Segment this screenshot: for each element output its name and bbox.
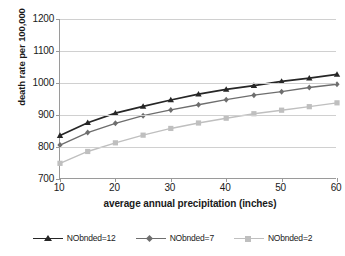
data-point bbox=[196, 120, 201, 125]
legend-item-NObnded=12[interactable]: NObnded=12 bbox=[33, 233, 116, 244]
data-point bbox=[279, 89, 284, 95]
legend-item-NObnded=7[interactable]: NObnded=7 bbox=[136, 233, 214, 244]
data-point bbox=[224, 97, 229, 103]
data-point bbox=[307, 84, 312, 90]
data-point bbox=[113, 120, 118, 126]
chart-legend: NObnded=12NObnded=7NObnded=2 bbox=[0, 229, 345, 247]
data-point bbox=[196, 102, 201, 108]
gridline-y-800 bbox=[60, 147, 336, 148]
legend-label: NObnded=2 bbox=[268, 233, 312, 243]
gridline-y-1000 bbox=[60, 83, 336, 84]
x-tick-label-30: 30 bbox=[150, 182, 190, 194]
data-point bbox=[168, 107, 173, 113]
data-point bbox=[251, 92, 256, 98]
plot-area bbox=[59, 19, 336, 179]
legend-label: NObnded=12 bbox=[67, 233, 116, 243]
data-point bbox=[113, 140, 118, 145]
x-axis-tick-labels: 102030405060 bbox=[59, 182, 336, 196]
y-tick-label-1100: 1100 bbox=[14, 46, 54, 56]
legend-label: NObnded=7 bbox=[170, 233, 214, 243]
chart-figure: death rate per 100,000 70080090010001100… bbox=[0, 0, 345, 256]
y-tick-mark-800 bbox=[56, 147, 60, 148]
data-point bbox=[334, 100, 339, 105]
y-tick-mark-900 bbox=[56, 115, 60, 116]
data-point bbox=[279, 108, 284, 113]
gridline-y-900 bbox=[60, 115, 336, 116]
y-tick-mark-1200 bbox=[56, 19, 60, 20]
x-tick-label-50: 50 bbox=[261, 182, 301, 194]
legend-item-NObnded=2[interactable]: NObnded=2 bbox=[234, 233, 312, 244]
data-point bbox=[224, 116, 229, 121]
data-point bbox=[168, 126, 173, 131]
legend-swatch-icon bbox=[136, 233, 166, 244]
gridline-y-1100 bbox=[60, 51, 336, 52]
y-tick-mark-1100 bbox=[56, 51, 60, 52]
y-tick-mark-1000 bbox=[56, 83, 60, 84]
y-tick-label-1000: 1000 bbox=[14, 78, 54, 88]
x-tick-label-60: 60 bbox=[316, 182, 345, 194]
x-tick-label-40: 40 bbox=[205, 182, 245, 194]
y-axis-tick-labels: 700800900100011001200 bbox=[14, 12, 54, 186]
x-axis-title: average annual precipitation (inches) bbox=[40, 198, 340, 209]
x-tick-label-10: 10 bbox=[39, 182, 79, 194]
legend-swatch-icon bbox=[234, 233, 264, 244]
y-tick-label-1200: 1200 bbox=[14, 14, 54, 24]
series-layer bbox=[60, 19, 337, 179]
series-NObnded=2 bbox=[57, 100, 339, 166]
data-point bbox=[307, 104, 312, 109]
x-tick-label-20: 20 bbox=[94, 182, 134, 194]
y-tick-label-800: 800 bbox=[14, 142, 54, 152]
gridline-y-1200 bbox=[60, 19, 336, 20]
series-line-2 bbox=[60, 103, 337, 163]
data-point bbox=[141, 133, 146, 138]
data-point bbox=[85, 149, 90, 154]
y-tick-label-900: 900 bbox=[14, 110, 54, 120]
data-point bbox=[57, 161, 62, 166]
data-point bbox=[85, 130, 90, 136]
legend-swatch-icon bbox=[33, 233, 63, 244]
